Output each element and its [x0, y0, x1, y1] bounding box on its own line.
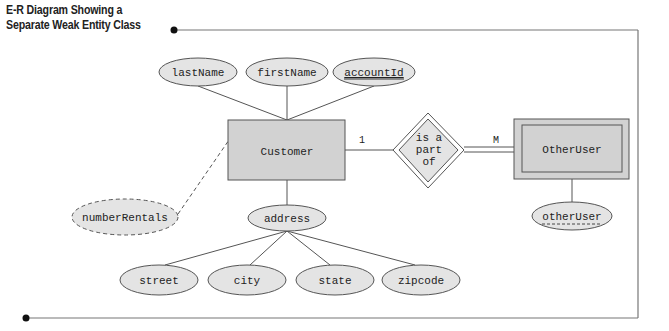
svg-text:firstName: firstName: [257, 67, 316, 79]
svg-text:part: part: [416, 144, 442, 156]
attribute-street: street: [120, 265, 198, 295]
svg-text:street: street: [139, 275, 179, 287]
attribute-account-id: accountId: [333, 58, 415, 86]
frame-bottom-dot: [23, 315, 30, 322]
attribute-number-rentals: numberRentals: [72, 199, 178, 235]
er-diagram: lastName firstName accountId numberRenta…: [0, 0, 669, 331]
attribute-last-name: lastName: [159, 58, 237, 86]
svg-text:is a: is a: [416, 132, 443, 144]
svg-text:accountId: accountId: [344, 67, 403, 79]
svg-text:of: of: [422, 156, 435, 168]
cardinality-one: 1: [359, 135, 365, 146]
attribute-first-name: firstName: [246, 58, 328, 86]
svg-text:lastName: lastName: [172, 67, 225, 79]
relationship-is-a-part-of: is a part of: [393, 113, 464, 188]
svg-text:numberRentals: numberRentals: [82, 212, 168, 224]
attribute-address: address: [248, 205, 326, 231]
attribute-city: city: [208, 265, 286, 295]
svg-text:otherUser: otherUser: [542, 211, 601, 223]
connectors: [165, 86, 572, 265]
svg-text:zipcode: zipcode: [398, 275, 444, 287]
frame-top-dot: [171, 27, 178, 34]
svg-text:address: address: [264, 213, 310, 225]
svg-text:city: city: [234, 275, 261, 287]
attribute-state: state: [296, 265, 374, 295]
svg-text:Customer: Customer: [261, 146, 314, 158]
svg-text:state: state: [318, 275, 351, 287]
cardinality-many: M: [493, 135, 499, 146]
entity-other-user: OtherUser: [514, 119, 629, 179]
attribute-other-user: otherUser: [532, 202, 612, 230]
attribute-zipcode: zipcode: [382, 265, 460, 295]
entity-customer: Customer: [228, 120, 345, 180]
svg-text:OtherUser: OtherUser: [542, 144, 601, 156]
